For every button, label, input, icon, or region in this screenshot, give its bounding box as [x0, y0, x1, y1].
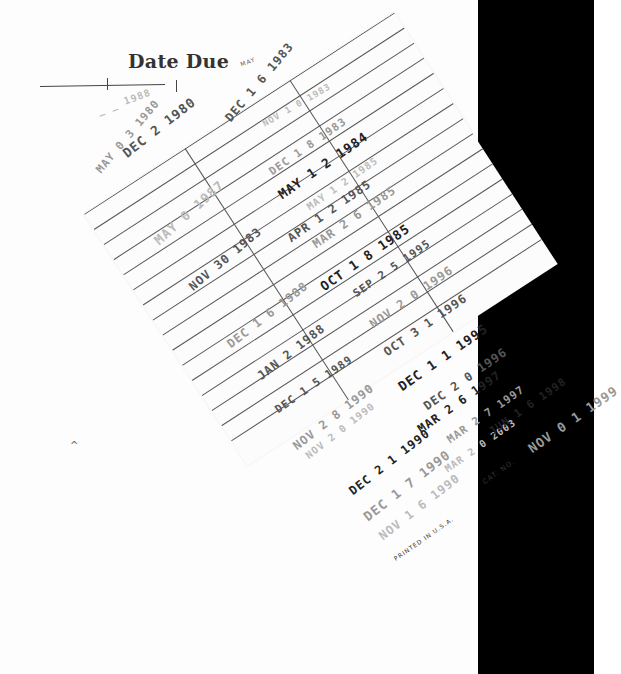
- background-black: [478, 0, 594, 674]
- header-column-divider: [107, 78, 108, 90]
- stray-mark: ^: [70, 440, 78, 451]
- header-column-divider: [176, 80, 177, 92]
- date-due-title: Date Due: [128, 50, 229, 72]
